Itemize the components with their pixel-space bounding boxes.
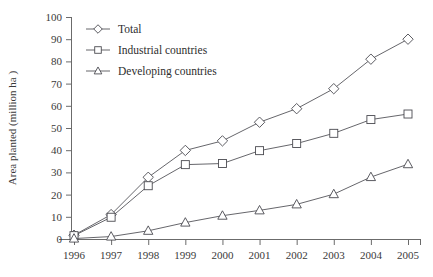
data-point-marker <box>107 213 115 221</box>
x-tick-label: 2005 <box>397 249 420 261</box>
x-axis-tick-labels: 1996199719981999200020012002200320042005 <box>63 249 420 261</box>
x-tick-label: 1997 <box>100 249 123 261</box>
data-point-marker <box>180 145 190 155</box>
data-point-marker <box>403 159 412 167</box>
data-point-marker <box>181 161 189 169</box>
legend-label: Total <box>118 23 141 35</box>
series-developing-countries <box>69 159 412 242</box>
line-chart: 0102030405060708090100 19961997199819992… <box>0 0 433 277</box>
chart-legend: TotalIndustrial countriesDeveloping coun… <box>86 23 217 78</box>
series-industrial-countries <box>70 110 412 240</box>
x-tick-label: 2004 <box>360 249 383 261</box>
data-point-marker <box>403 34 413 44</box>
y-tick-label: 80 <box>51 55 63 67</box>
data-point-marker <box>256 147 264 155</box>
x-tick-label: 2003 <box>323 249 346 261</box>
data-point-marker <box>367 116 375 124</box>
x-tick-label: 1998 <box>137 249 160 261</box>
x-tick-label: 2001 <box>249 249 271 261</box>
data-point-marker <box>329 189 338 197</box>
legend-label: Developing countries <box>118 65 217 78</box>
y-tick-label: 60 <box>51 100 63 112</box>
y-tick-label: 10 <box>51 211 63 223</box>
legend-marker <box>94 67 102 74</box>
series-line <box>74 114 408 236</box>
data-point-marker <box>293 140 301 148</box>
y-axis-title: Area planted (million ha ) <box>6 71 19 186</box>
legend-item: Industrial countries <box>86 44 208 56</box>
x-tick-label: 2002 <box>286 249 308 261</box>
y-tick-label: 0 <box>57 233 63 245</box>
data-point-marker <box>330 129 338 137</box>
y-axis-tick-labels: 0102030405060708090100 <box>46 11 63 245</box>
legend-item: Total <box>86 23 141 35</box>
legend-marker <box>94 25 103 34</box>
x-axis-ticks <box>75 240 421 246</box>
x-tick-label: 1996 <box>63 249 86 261</box>
data-point-marker <box>404 110 412 118</box>
y-tick-label: 20 <box>51 189 63 201</box>
y-tick-label: 70 <box>51 78 63 90</box>
data-point-marker <box>366 54 376 64</box>
data-point-marker <box>218 160 226 168</box>
legend-item: Developing countries <box>86 65 217 78</box>
data-point-marker <box>254 117 264 127</box>
legend-marker <box>95 47 102 54</box>
y-tick-label: 100 <box>46 11 63 23</box>
y-tick-label: 50 <box>51 122 63 134</box>
legend-label: Industrial countries <box>118 44 208 56</box>
y-tick-label: 30 <box>51 166 63 178</box>
y-tick-label: 40 <box>51 144 63 156</box>
data-point-marker <box>217 136 227 146</box>
y-axis-ticks <box>66 18 72 240</box>
y-tick-label: 90 <box>51 33 63 45</box>
data-point-marker <box>329 84 339 94</box>
x-tick-label: 2000 <box>211 249 234 261</box>
x-tick-label: 1999 <box>174 249 197 261</box>
data-point-marker <box>291 103 301 113</box>
data-point-marker <box>144 182 152 190</box>
chart-canvas: 0102030405060708090100 19961997199819992… <box>0 0 433 277</box>
